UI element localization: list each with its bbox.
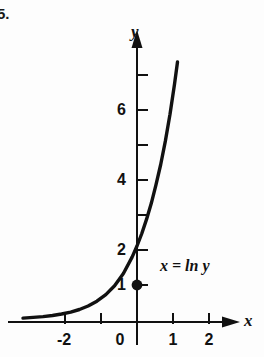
x-tick-label-minus2: -2	[52, 332, 76, 348]
y-axis-ticks	[137, 75, 148, 285]
y-axis-label: y	[131, 23, 139, 40]
y-tick-label-4: 4	[104, 172, 126, 188]
y-tick-label-6: 6	[104, 102, 126, 118]
x-tick-label-2: 2	[197, 332, 221, 348]
curve-equation-label: x = ln y	[160, 258, 210, 274]
y-tick-label-1: 1	[104, 277, 126, 293]
x-tick-label-0: 0	[108, 332, 132, 348]
exponential-curve	[23, 62, 178, 318]
marked-point-0-1	[132, 280, 143, 291]
y-tick-label-2: 2	[104, 242, 126, 258]
x-tick-label-1: 1	[161, 332, 185, 348]
x-axis-label: x	[244, 312, 253, 329]
x-axis-arrowhead	[222, 317, 240, 328]
figure-container: 5. y x	[0, 0, 264, 357]
plot-area	[0, 0, 264, 357]
